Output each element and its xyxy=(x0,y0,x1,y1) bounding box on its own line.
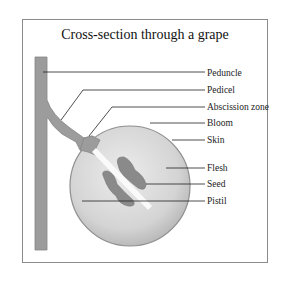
grape-illustration xyxy=(0,0,283,282)
label-abscission-zone: Abscission zone xyxy=(207,102,269,112)
label-skin: Skin xyxy=(207,135,224,145)
label-peduncle: Peduncle xyxy=(207,68,242,78)
label-pistil: Pistil xyxy=(207,196,227,206)
label-pedicel: Pedicel xyxy=(207,85,235,95)
label-seed: Seed xyxy=(207,179,225,189)
label-bloom: Bloom xyxy=(207,118,233,128)
label-flesh: Flesh xyxy=(207,163,228,173)
